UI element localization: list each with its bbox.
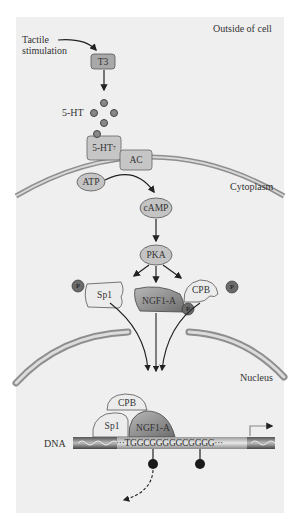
t3-label: T3 [91,54,115,69]
transcription-start-arrow [250,426,272,436]
dna-label: DNA [44,438,66,449]
label-tactile: Tactile [22,34,49,45]
bound-serotonin [94,131,101,138]
receptor-text: 5-HT [92,143,113,153]
pka-label: PKA [140,245,172,265]
sp1-phospho-label: P [72,280,84,292]
dna-sequence: ···TGGCGGGGGCGGGG··· [116,438,223,449]
methylation-dashed-arrow [124,470,153,500]
label-nucleus: Nucleus [240,372,273,383]
serotonin-molecules [91,100,118,127]
complex-sp1-label: Sp1 [96,419,128,433]
cpb-phospho-label: P [226,281,238,293]
nuclear-envelope-left [16,332,128,383]
serotonin-label: 5-HT [62,107,84,118]
atp-arrow [105,175,154,192]
label-cytoplasm: Cytoplasm [230,181,273,192]
atp-label: ATP [77,173,105,191]
ngf1a-phospho-label: P [182,303,194,315]
pka-arrows [134,265,181,282]
nuclear-envelope-right [189,332,284,377]
camp-label: cAMP [140,198,172,218]
ac-label: AC [120,150,152,170]
label-outside-of-cell: Outside of cell [213,23,272,34]
label-stimulation: stimulation [22,45,67,56]
receptor-label: 5-HT7 [87,140,121,156]
complex-cpb-label: CPB [110,397,144,409]
ngf1a-label: NGF1-A [135,292,183,310]
receptor-subscript: 7 [113,145,116,151]
sp1-label: Sp1 [88,285,121,305]
complex-ngf1a-label: NGF1-A [131,421,175,435]
methyl-groups [148,449,205,469]
cpb-label: CPB [186,282,216,298]
